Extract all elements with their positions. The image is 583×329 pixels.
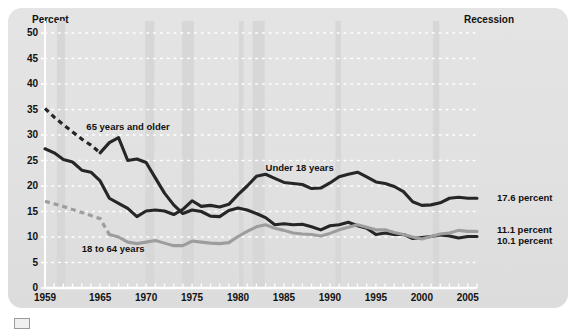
x-tick-label: 1990 xyxy=(308,292,352,303)
series-annotation-label: 18 to 64 years xyxy=(82,243,145,254)
y-tick-label: 15 xyxy=(16,206,38,217)
recession-band xyxy=(335,21,341,288)
x-tick-label: 1995 xyxy=(354,292,398,303)
y-tick-label: 40 xyxy=(16,78,38,89)
recession-legend-swatch xyxy=(14,318,30,329)
x-tick-label: 1980 xyxy=(216,292,260,303)
x-tick-label: 2005 xyxy=(446,292,490,303)
series-annotation-label: Under 18 years xyxy=(266,162,334,173)
recession-band xyxy=(253,21,265,288)
y-tick-label: 20 xyxy=(16,180,38,191)
x-tick-label: 1970 xyxy=(124,292,168,303)
recession-band xyxy=(239,21,244,288)
y-tick-label: 25 xyxy=(16,155,38,166)
series-line xyxy=(100,138,477,239)
recession-band xyxy=(145,21,154,288)
x-tick-label: 2000 xyxy=(400,292,444,303)
y-tick-label: 30 xyxy=(16,129,38,140)
x-tick-label: 1975 xyxy=(170,292,214,303)
series-annotation-label: 65 years and older xyxy=(86,121,169,132)
x-tick-label: 1959 xyxy=(23,292,67,303)
recession-band xyxy=(182,21,194,288)
series-line xyxy=(109,225,477,246)
series-end-label: 17.6 percent xyxy=(497,192,552,203)
x-tick-label: 1965 xyxy=(78,292,122,303)
y-tick-label: 45 xyxy=(16,53,38,64)
y-tick-label: 50 xyxy=(16,27,38,38)
recession-band xyxy=(433,21,439,288)
y-tick-label: 10 xyxy=(16,231,38,242)
series-end-label: 10.1 percent xyxy=(497,235,552,246)
series-line-dashed xyxy=(45,201,109,234)
y-tick-label: 35 xyxy=(16,104,38,115)
series-end-label: 11.1 percent xyxy=(497,224,552,235)
y-tick-label: 5 xyxy=(16,257,38,268)
x-tick-label: 1985 xyxy=(262,292,306,303)
